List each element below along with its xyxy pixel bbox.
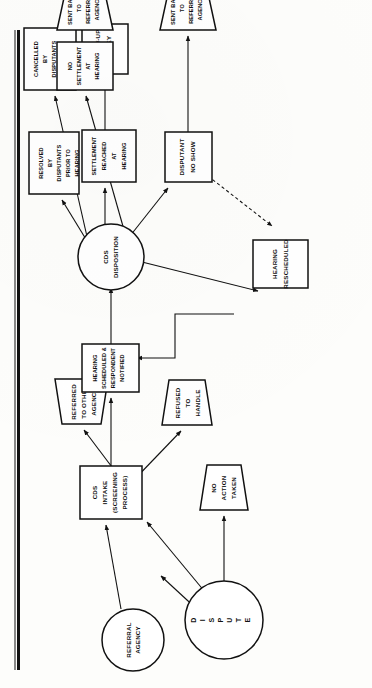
- node-refused-to-handle-label-3: HANDLE: [194, 390, 201, 417]
- node-resolved-prior-to-hearing[interactable]: RESOLVED BY DISPUTANTS PRIOR TO HEARING: [29, 132, 80, 194]
- node-hearing-scheduled-label-2: SCHEDULED &: [101, 347, 107, 389]
- node-sent-back-2-label-2: TO: [179, 4, 185, 12]
- node-settlement-reached-at-hearing[interactable]: SETTLEMENT REACHED AT HEARING: [82, 130, 136, 182]
- node-cds-intake-label-1: CDS: [91, 486, 98, 500]
- node-sent-back-1-label-2: TO: [76, 4, 82, 12]
- node-settlement-reached-label-1: SETTLEMENT: [91, 136, 97, 175]
- node-cds-intake[interactable]: CDS INTAKE (SCREENING PROCESS): [80, 466, 142, 519]
- node-sent-back-to-referral-agency-1[interactable]: SENT BACK TO REFERRAL AGENCY: [57, 0, 113, 30]
- scanned-page: D I S P U T E REFERRAL AGENCY NO ACTION …: [0, 0, 372, 688]
- node-settlement-reached-label-2: REACHED: [101, 142, 107, 171]
- edge-layer: [55, 36, 272, 612]
- node-dispute-label-4: P: [217, 617, 224, 622]
- node-cds-intake-label-2: INTAKE: [101, 481, 108, 505]
- node-hearing-scheduled-label-1: HEARING: [92, 355, 98, 382]
- node-resolved-prior-label-1: RESOLVED: [38, 147, 44, 179]
- node-sent-back-2-label-3: REFERRAL: [188, 0, 194, 24]
- rotated-diagram-canvas: D I S P U T E REFERRAL AGENCY NO ACTION …: [0, 0, 372, 688]
- node-sent-back-to-referral-agency-2[interactable]: SENT BACK TO REFERRAL AGENCY: [160, 0, 216, 30]
- node-no-settlement-label-3: AT: [85, 62, 91, 70]
- node-cds-intake-label-4: PROCESS): [121, 476, 128, 510]
- node-no-settlement-label-1: NO: [67, 61, 73, 70]
- node-hearing-scheduled-label-3: RESPONDENT: [110, 347, 116, 388]
- node-no-action-taken-label-1: NO: [210, 483, 217, 493]
- edge-hearing-rescheduled-to-hearing-scheduled: [137, 314, 234, 358]
- node-hearing-rescheduled[interactable]: HEARING RESCHEDULED: [253, 239, 308, 289]
- node-resolved-prior-label-3: DISPUTANTS: [56, 144, 62, 181]
- node-cancelled-prior-label-3: DISPUTANTS: [51, 40, 57, 77]
- node-cds-intake-label-3: (SCREENING: [111, 472, 118, 513]
- node-referral-agency[interactable]: REFERRAL AGENCY: [102, 609, 164, 671]
- node-dispute[interactable]: D I S P U T E: [185, 581, 263, 659]
- node-hearing-scheduled-label-4: NOTIFIED: [119, 354, 125, 381]
- node-dispute-label-6: T: [235, 617, 242, 622]
- node-resolved-prior-label-4: PRIOR TO: [65, 148, 71, 177]
- node-dispute-label-1: D: [190, 617, 197, 622]
- node-settlement-reached-label-3: AT: [111, 152, 117, 160]
- node-dispute-label-2: I: [199, 619, 206, 621]
- node-no-settlement-label-2: SETTLEMENT: [76, 46, 82, 85]
- edge-cds-disposition-to-disputant-no-show: [130, 188, 168, 236]
- flowchart-svg: D I S P U T E REFERRAL AGENCY NO ACTION …: [0, 0, 372, 688]
- node-refused-to-handle-label-1: REFUSED: [174, 387, 181, 418]
- node-cancelled-prior-label-2: BY: [42, 55, 48, 63]
- node-cds-disposition-label-1: CDS: [102, 250, 109, 264]
- node-refused-to-handle-label-2: TO: [184, 399, 191, 408]
- node-resolved-prior-label-5: HEARING: [74, 150, 80, 177]
- node-referral-agency-label-2: AGENCY: [134, 625, 141, 653]
- node-referral-agency-label-1: REFERRAL: [125, 622, 132, 657]
- node-refused-to-handle[interactable]: REFUSED TO HANDLE: [162, 380, 212, 425]
- node-dispute-label-5: U: [226, 617, 233, 622]
- node-dispute-label-3: S: [208, 617, 215, 622]
- node-disputant-no-show-label-2: NO SHOW: [189, 141, 196, 173]
- edge-referral-agency-to-cds-intake: [106, 525, 121, 609]
- node-hearing-resched-label-2: RESCHEDULED: [282, 239, 289, 289]
- node-no-action-taken-label-2: ACTION: [220, 475, 227, 500]
- node-resolved-prior-label-2: BY: [47, 159, 53, 167]
- node-hearing-resched-label-1: HEARING: [271, 249, 278, 279]
- node-cds-disposition-label-2: DISPOSITION: [112, 236, 119, 278]
- node-settlement-reached-label-4: HEARING: [121, 143, 127, 170]
- node-sent-back-2-label-1: SENT BACK: [170, 0, 176, 25]
- node-disputant-no-show[interactable]: DISPUTANT NO SHOW: [165, 132, 212, 182]
- node-sent-back-1-label-4: AGENCY: [94, 0, 100, 20]
- node-sent-back-1-label-1: SENT BACK: [67, 0, 73, 25]
- node-cds-disposition[interactable]: CDS DISPOSITION: [78, 224, 144, 290]
- node-no-action-taken-label-3: TAKEN: [230, 477, 237, 499]
- node-no-action-taken[interactable]: NO ACTION TAKEN: [200, 465, 248, 510]
- node-disputant-no-show-label-1: DISPUTANT: [178, 139, 185, 176]
- node-sent-back-1-label-3: REFERRAL: [85, 0, 91, 24]
- node-sent-back-2-label-4: AGENCY: [197, 0, 203, 20]
- node-hearing-scheduled[interactable]: HEARING SCHEDULED & RESPONDENT NOTIFIED: [82, 344, 139, 392]
- edge-disputant-no-show-to-hearing-rescheduled-dashed: [208, 176, 272, 226]
- edge-cds-disposition-to-hearing-rescheduled: [134, 260, 258, 291]
- node-dispute-label-7: E: [244, 617, 251, 622]
- node-no-settlement-label-4: HEARING: [94, 53, 100, 80]
- node-cancelled-prior-label-1: CANCELLED: [33, 41, 39, 77]
- node-no-settlement-at-hearing[interactable]: NO SETTLEMENT AT HEARING: [57, 42, 113, 90]
- node-referred-other-label-1: REFERRED: [70, 384, 77, 420]
